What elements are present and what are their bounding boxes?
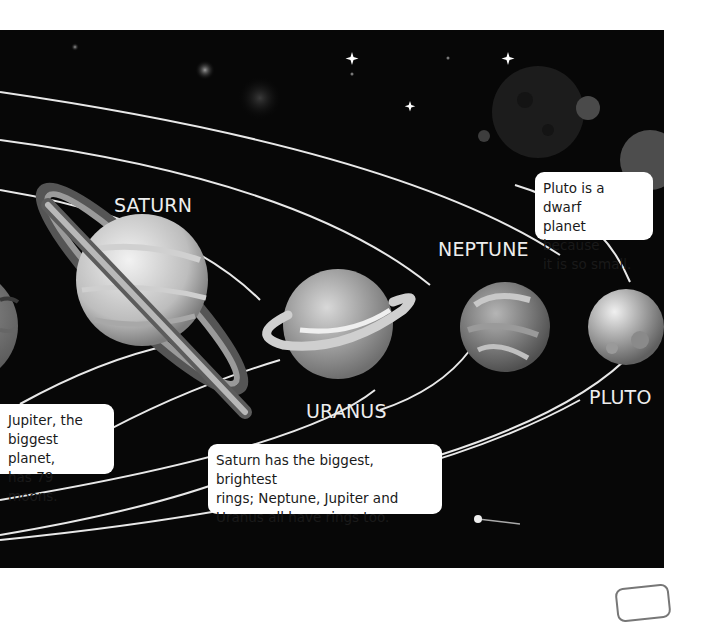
solar-system-illustration: SATURN NEPTUNE URANUS PLUTO Pluto is a d… xyxy=(0,30,664,568)
distant-planet xyxy=(492,66,584,158)
jupiter-planet xyxy=(0,268,18,384)
jupiter-note: Jupiter, the biggest planet, has 79 moon… xyxy=(0,404,114,474)
neptune-planet xyxy=(460,282,550,372)
pluto-planet xyxy=(588,289,664,365)
glow-dot xyxy=(195,60,215,80)
pluto-note: Pluto is a dwarf planet because it is so… xyxy=(535,172,653,240)
comet xyxy=(474,515,520,524)
star-icon xyxy=(346,52,515,112)
neptune-label: NEPTUNE xyxy=(438,238,529,260)
saturn-label: SATURN xyxy=(114,194,192,216)
page-corner-tab xyxy=(614,583,671,622)
rings-note: Saturn has the biggest, brightest rings;… xyxy=(208,444,442,514)
uranus-label: URANUS xyxy=(306,400,387,422)
uranus-planet xyxy=(267,269,411,379)
pluto-label: PLUTO xyxy=(589,386,652,408)
